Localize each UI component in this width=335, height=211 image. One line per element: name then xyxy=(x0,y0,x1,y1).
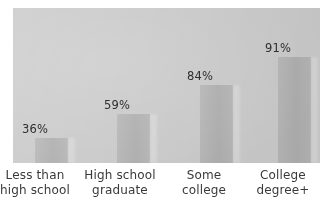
bar-high-school-graduate[interactable] xyxy=(117,114,150,163)
category-label-some-college: Some college xyxy=(161,168,247,198)
category-label-line: college xyxy=(161,183,247,198)
category-label-line: College xyxy=(240,168,326,183)
category-label-line: high school xyxy=(0,183,78,198)
value-label-some-college: 84% xyxy=(177,69,223,83)
category-label-line: graduate xyxy=(77,183,163,198)
category-label-line: Less than xyxy=(0,168,78,183)
bar-chart-figure: 36% 59% 84% 91% Less than high school Hi… xyxy=(0,0,335,211)
category-label-line: Some xyxy=(161,168,247,183)
bar-some-college[interactable] xyxy=(200,85,233,163)
category-label-high-school-graduate: High school graduate xyxy=(77,168,163,198)
bar-shadow xyxy=(311,57,318,163)
category-label-less-than-high-school: Less than high school xyxy=(0,168,78,198)
value-label-college-degree-plus: 91% xyxy=(255,41,301,55)
bar-less-than-high-school[interactable] xyxy=(35,138,68,163)
plot-area xyxy=(13,8,320,163)
value-label-less-than-high-school: 36% xyxy=(12,122,58,136)
category-label-line: High school xyxy=(77,168,163,183)
bar-college-degree-plus[interactable] xyxy=(278,57,311,163)
bar-shadow xyxy=(68,138,75,163)
bar-shadow xyxy=(233,85,240,163)
category-label-line: degree+ xyxy=(240,183,326,198)
bar-shadow xyxy=(150,114,157,163)
value-label-high-school-graduate: 59% xyxy=(94,98,140,112)
category-label-college-degree-plus: College degree+ xyxy=(240,168,326,198)
